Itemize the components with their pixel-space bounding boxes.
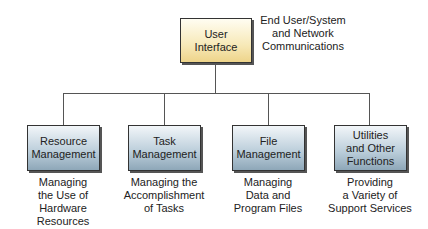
file-management-description: Managing Data and Program Files [222, 176, 314, 215]
horizontal-bus [63, 93, 370, 94]
user-interface-box: User Interface [180, 18, 252, 63]
utilities-description: Providing a Variety of Support Services [320, 176, 420, 215]
stem-task [164, 93, 165, 125]
stem-file [268, 93, 269, 125]
stem-utilities [369, 93, 370, 125]
task-management-description: Managing the Accomplishment of Tasks [120, 176, 208, 215]
stem-resource [63, 93, 64, 125]
resource-management-description: Managing the Use of Hardware Resources [22, 176, 104, 228]
file-management-box: File Management [232, 125, 305, 171]
root-stem [215, 62, 216, 94]
utilities-box: Utilities and Other Functions [334, 125, 407, 171]
task-management-box: Task Management [128, 125, 201, 171]
resource-management-box: Resource Management [27, 125, 100, 171]
diagram-canvas: User Interface End User/System and Netwo… [0, 0, 428, 229]
user-interface-description: End User/System and Network Communicatio… [253, 14, 353, 53]
